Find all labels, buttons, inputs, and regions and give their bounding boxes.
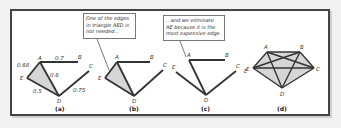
node-a-label: A: [114, 54, 119, 60]
weight-ad: 0.6: [50, 72, 59, 78]
node-c-label: C: [89, 63, 93, 69]
node-e-label: E: [98, 75, 102, 81]
weight-dc: 0.75: [73, 87, 86, 93]
node-e-label: E: [246, 66, 250, 72]
node-c-label: C: [316, 66, 320, 72]
node-b-label: B: [300, 44, 304, 50]
edge-e-d: [176, 72, 206, 95]
node-d-label: D: [204, 97, 208, 103]
node-c-label: C: [236, 63, 240, 69]
node-d-label: D: [57, 98, 61, 104]
panel-d: A B C D E (d): [246, 44, 320, 112]
caption-c: (c): [201, 105, 210, 112]
node-d-label: D: [132, 98, 136, 104]
callout-c: ...and we eliminate AE because it is the…: [163, 15, 225, 41]
node-b-label: B: [150, 54, 154, 60]
node-a-label: A: [186, 52, 191, 58]
node-d-label: D: [280, 91, 284, 97]
node-c-label: C: [163, 62, 167, 68]
edge-d-c: [134, 70, 163, 96]
node-b-label: B: [225, 52, 229, 58]
node-e-label: E: [172, 64, 176, 70]
panel-c: A B C D E E (c): [172, 41, 248, 112]
edge-d-c: [206, 71, 236, 95]
panel-a: A B C D E 0.68 0.7 0.6 0.5 0.75 (a): [17, 54, 93, 112]
node-b-label: B: [78, 54, 82, 60]
weight-ab: 0.7: [55, 55, 64, 61]
weight-ed: 0.5: [33, 88, 42, 94]
edge-a-d: [189, 60, 206, 95]
caption-d: (d): [277, 105, 287, 112]
callout-b: One of the edges in triangle AED is not …: [83, 13, 136, 39]
node-a-label: A: [263, 44, 268, 50]
weight-ea: 0.68: [17, 62, 30, 68]
callout-pointer: [97, 39, 109, 70]
caption-b: (b): [129, 105, 139, 112]
callout-pointer: [180, 41, 186, 57]
panel-b: A B C D E (b): [97, 39, 167, 112]
caption-a: (a): [55, 105, 65, 112]
node-a-label: A: [37, 55, 42, 61]
node-e-label: E: [20, 75, 24, 81]
